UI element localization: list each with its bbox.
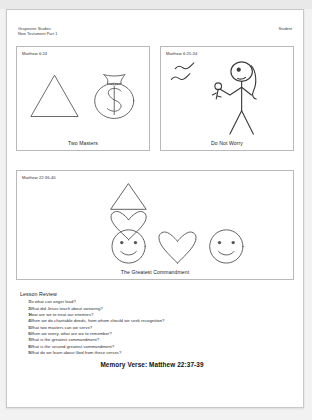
list-item-text: What do we learn about God from these ve… [29, 350, 292, 356]
panel-artwork-greatest-commandment [17, 180, 293, 266]
panel-artwork-do-not-worry [161, 56, 293, 137]
list-item: 9. What do we learn about God from these… [20, 350, 292, 356]
lesson-panel-greatest-commandment: Matthew 22:36-40 [16, 170, 294, 280]
lesson-panel-do-not-worry: Matthew 6:25-34 [160, 46, 294, 151]
panel-caption: The Greatest Commandment [17, 269, 293, 275]
list-item-number: 9. [20, 350, 29, 356]
triangle-icon [31, 76, 78, 117]
worksheet-page: Grapevine Studies New Testament Part 1 S… [6, 9, 304, 408]
worksheet-viewport: Grapevine Studies New Testament Part 1 S… [0, 0, 312, 420]
panel-caption: Do Not Worry [161, 140, 293, 146]
document-header: Grapevine Studies New Testament Part 1 S… [18, 26, 292, 36]
money-bag-icon [95, 75, 134, 119]
memory-verse: Memory Verse: Matthew 22:37-39 [7, 361, 297, 368]
birds-icon [171, 63, 193, 80]
triangle-icon [111, 184, 146, 209]
window-top-band [0, 0, 312, 9]
lesson-review-section: Lesson Review 1. To what can anger lead?… [20, 291, 292, 356]
edition-label: Student [279, 26, 292, 31]
panel-caption: Two Masters [17, 140, 149, 146]
curriculum-title: New Testament Part 1 [18, 31, 57, 36]
stick-figure-icon [212, 62, 256, 134]
lesson-review-list: 1. To what can anger lead? 2. What did J… [20, 299, 292, 356]
panel-artwork-two-masters [17, 56, 149, 137]
lesson-review-heading: Lesson Review [20, 291, 292, 297]
lesson-panel-two-masters: Matthew 6:24 [16, 46, 150, 151]
smiley-face-icon-right [210, 230, 243, 263]
smiley-face-icon-left [112, 230, 145, 263]
publisher-block: Grapevine Studies New Testament Part 1 [18, 26, 57, 36]
flower-icon [212, 83, 221, 99]
heart-icon-middle [159, 232, 196, 263]
